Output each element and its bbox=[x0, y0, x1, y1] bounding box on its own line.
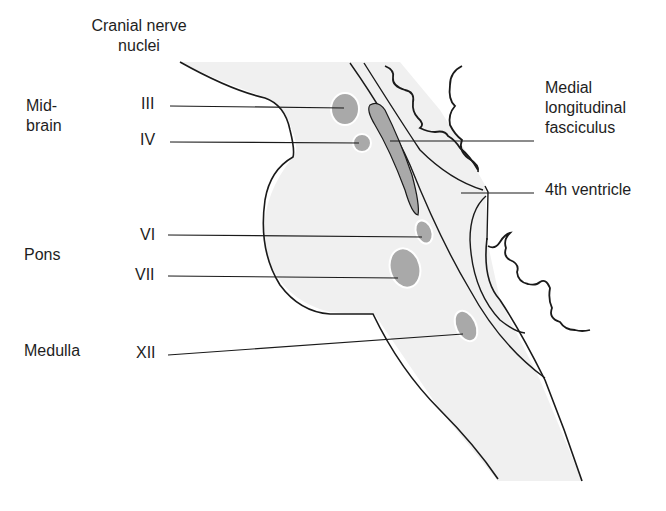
mlf-label: Medial longitudinal fasciculus bbox=[545, 78, 626, 138]
nucleus-label-IV: IV bbox=[140, 130, 155, 150]
mlf-line-2: longitudinal bbox=[545, 98, 626, 118]
title-label: Cranial nerve nuclei bbox=[74, 16, 204, 56]
nucleus-label-VI: VI bbox=[140, 225, 155, 245]
brainstem-diagram bbox=[0, 0, 666, 511]
region-pons: Pons bbox=[24, 245, 60, 265]
mlf-line-1: Medial bbox=[545, 78, 626, 98]
ventricle-label: 4th ventricle bbox=[545, 180, 631, 200]
title-line-1: Cranial nerve bbox=[74, 16, 204, 36]
region-medulla: Medulla bbox=[24, 341, 80, 361]
region-midbrain: Mid- brain bbox=[26, 96, 62, 136]
nucleus-label-III: III bbox=[141, 94, 154, 114]
title-line-2: nuclei bbox=[74, 36, 204, 56]
region-midbrain-line-1: Mid- bbox=[26, 96, 62, 116]
nucleus-label-VII: VII bbox=[135, 265, 155, 285]
mlf-line-3: fasciculus bbox=[545, 118, 626, 138]
region-midbrain-line-2: brain bbox=[26, 116, 62, 136]
nucleus-label-XII: XII bbox=[136, 343, 156, 363]
nucleus-III bbox=[331, 93, 359, 125]
